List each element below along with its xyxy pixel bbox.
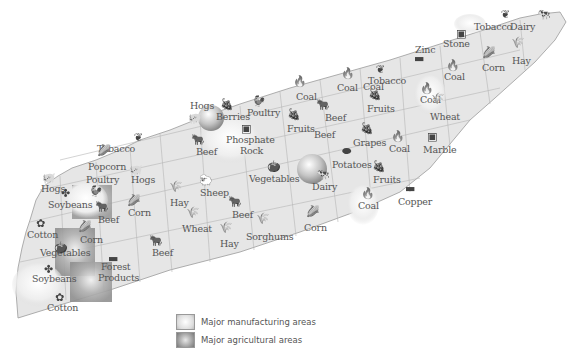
coal-flame-icon: 🔥 [341, 68, 355, 79]
map-label: Corn [304, 223, 327, 233]
cotton-icon: ✿ [36, 218, 45, 229]
beef-cow-icon: 🐂 [191, 134, 205, 145]
map-label: Poultry [86, 175, 119, 185]
hogs-icon: 🐖 [129, 165, 143, 176]
map-label: Popcorn [88, 162, 126, 172]
phosphate-rock-icon: ▣ [241, 123, 251, 134]
map-label: Beef [196, 147, 217, 157]
tobacco-leaf-icon: ❦ [376, 64, 385, 75]
map-label: Beef [314, 130, 335, 140]
map-label: Rock [240, 146, 263, 156]
map-label: Beef [152, 248, 173, 258]
poultry-icon: 🐓 [252, 96, 266, 107]
poultry-icon: 🐓 [89, 186, 103, 197]
map-label: Dairy [312, 182, 337, 192]
tobacco-leaf-icon: ❦ [501, 9, 510, 20]
legend-item-agricultural: Major agricultural areas [176, 331, 316, 349]
map-label: Marble [423, 145, 456, 155]
corn-icon: 🌽 [78, 221, 92, 232]
coal-flame-icon: 🔥 [446, 60, 460, 71]
map-label: Berries [216, 112, 250, 122]
wheat-icon: 🌾 [431, 93, 445, 104]
hay-icon: 🌾 [511, 37, 525, 48]
map-label: Stone [443, 39, 470, 49]
vegetables-icon: 🍅 [267, 161, 281, 172]
wheat-icon: 🌾 [186, 207, 200, 218]
map-label: Fruits [367, 104, 395, 114]
fruits-icon: 🍇 [372, 161, 386, 172]
map-label: Soybeans [32, 274, 76, 284]
zinc-bar-icon: ▬ [414, 53, 424, 64]
legend-label: Major manufacturing areas [201, 317, 316, 327]
map-label: Soybeans [48, 200, 92, 210]
fruits-icon: 🍇 [287, 109, 301, 120]
sorghums-icon: 🌾 [256, 213, 270, 224]
map-label: Beef [325, 113, 346, 123]
map-label: Vegetables [249, 174, 299, 184]
berries-icon: 🍇 [220, 99, 234, 110]
hay-icon: 🌾 [219, 222, 233, 233]
map-label: Coal [389, 144, 410, 154]
legend-item-manufacturing: Major manufacturing areas [176, 313, 316, 331]
stone-icon: ▣ [456, 28, 466, 39]
beef-cow-icon: 🐂 [228, 196, 242, 207]
grapes-icon: 🍇 [360, 123, 374, 134]
map-label: Fruits [373, 175, 401, 185]
sheep-icon: 🐑 [199, 175, 213, 186]
corn-icon: 🌽 [127, 195, 141, 206]
dairy-cow-icon: 🐄 [537, 9, 551, 20]
map-label: Coal [337, 83, 358, 93]
map-label: Wheat [182, 224, 212, 234]
map-label: Sheep [200, 188, 229, 198]
hogs-icon: 🐖 [42, 173, 56, 184]
tobacco-leaf-icon: ❦ [134, 132, 143, 143]
wheat-icon: 🌾 [169, 181, 183, 192]
dairy-cow-icon: 🐄 [316, 169, 330, 180]
map-label: Corn [128, 208, 151, 218]
map-label: Hogs [190, 101, 214, 111]
map-label: Beef [98, 215, 119, 225]
map-label: Potatoes [332, 160, 372, 170]
beef-cow-icon: 🐂 [95, 201, 109, 212]
map-label: Coal [296, 92, 317, 102]
soybeans-icon: ✤ [61, 188, 70, 199]
map-label: Wheat [430, 112, 460, 122]
fruits-icon: 🍇 [368, 89, 382, 100]
legend-label: Major agricultural areas [201, 335, 302, 345]
corn-icon: 🌽 [482, 47, 496, 58]
beef-cow-icon: 🐂 [149, 235, 163, 246]
map-label: Poultry [247, 108, 280, 118]
map-label: Tobacco [368, 76, 406, 86]
map-label: Beef [232, 210, 253, 220]
agricultural-swatch [176, 332, 195, 348]
corn-icon: 🌽 [306, 206, 320, 217]
coal-flame-icon: 🔥 [361, 188, 375, 199]
map-label: Products [98, 273, 139, 283]
copper-bar-icon: ▬ [405, 183, 415, 194]
vegetables-icon: 🍅 [54, 242, 68, 253]
map-label: Fruits [287, 124, 315, 134]
hogs-icon: 🐖 [188, 113, 202, 124]
map-label: Dairy [510, 22, 535, 32]
soybeans-icon: ✤ [44, 264, 53, 275]
potatoes-icon: ⬬ [342, 146, 351, 157]
forest-products-icon: ▬ [108, 253, 118, 264]
corn-icon: 🌽 [97, 145, 111, 156]
marble-icon: ▣ [427, 131, 437, 142]
map-label: Corn [80, 235, 103, 245]
map-legend: Major manufacturing areas Major agricult… [176, 313, 316, 349]
manufacturing-swatch [176, 314, 195, 330]
cotton-icon: ✿ [55, 292, 64, 303]
map-label: Copper [398, 197, 432, 207]
map-label: Cotton [27, 230, 58, 240]
map-label: Coal [358, 201, 379, 211]
beef-cow-icon: 🐂 [316, 99, 330, 110]
map-label: Cotton [47, 303, 78, 313]
map-label: Corn [482, 63, 505, 73]
tennessee-resources-map: TobaccoDairyStoneZincCornHayCoalCoalToba… [0, 0, 578, 361]
map-label: Hay [220, 239, 239, 249]
map-label: Tobacco [474, 22, 512, 32]
coal-flame-icon: 🔥 [391, 131, 405, 142]
map-label: Coal [444, 72, 465, 82]
map-label: Phosphate [226, 135, 275, 145]
